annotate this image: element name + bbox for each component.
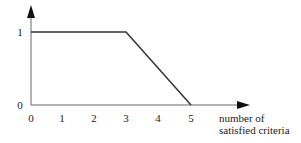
x-tick-2: 2 (91, 112, 97, 124)
y-axis-arrow-icon (27, 5, 35, 18)
membership-line (31, 32, 191, 105)
x-axis-label-line1: number of (219, 112, 265, 124)
x-tick-1: 1 (59, 112, 65, 124)
x-tick-0: 0 (28, 112, 34, 124)
x-tick-4: 4 (155, 112, 161, 124)
y-tick-0: 0 (17, 99, 23, 111)
x-tick-5: 5 (188, 112, 194, 124)
y-tick-1: 1 (17, 26, 23, 38)
x-axis-label-line2: satisfied criteria (219, 124, 290, 136)
chart: 1 0 0 1 2 3 4 5 number of satisfied crit… (0, 0, 301, 143)
x-tick-3: 3 (123, 112, 129, 124)
x-axis-arrow-icon (237, 101, 250, 109)
